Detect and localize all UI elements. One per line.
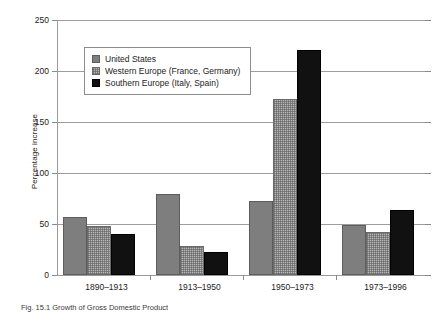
y-axis-label-50: 50	[40, 219, 49, 229]
legend-item-southern-europe[interactable]: Southern Europe (Italy, Spain)	[92, 77, 240, 89]
y-axis-label-250: 250	[35, 15, 49, 25]
bar-we-1973-1996[interactable]	[366, 232, 390, 275]
bar-se-1913-1950[interactable]	[204, 252, 228, 275]
legend-item-united-states[interactable]: United States	[92, 53, 240, 65]
y-axis-label-0: 0	[44, 270, 49, 280]
legend-label-united-states: United States	[105, 54, 156, 64]
bar-chart: Percentage increase 250 200 150 100 50 0	[0, 0, 438, 312]
y-tick-50	[52, 224, 57, 225]
y-axis-title: Percentage increase	[30, 72, 39, 232]
x-axis-label-1913-1950: 1913–1950	[156, 282, 243, 292]
chart-legend: United States Western Europe (France, Ge…	[84, 47, 251, 95]
x-axis-label-1890-1913: 1890–1913	[63, 282, 150, 292]
bar-we-1890-1913[interactable]	[87, 226, 111, 275]
bar-se-1950-1973[interactable]	[297, 50, 321, 275]
bar-us-1973-1996[interactable]	[342, 225, 366, 275]
y-tick-100	[52, 173, 57, 174]
y-tick-right-0	[425, 275, 431, 276]
bar-us-1913-1950[interactable]	[156, 194, 180, 275]
bar-se-1973-1996[interactable]	[390, 210, 414, 275]
x-axis-separator-3	[336, 275, 337, 280]
y-tick-0	[52, 275, 57, 276]
bar-se-1890-1913[interactable]	[111, 234, 135, 275]
x-axis-separator-1	[150, 275, 151, 280]
bar-we-1950-1973[interactable]	[273, 99, 297, 275]
x-axis-label-1950-1973: 1950–1973	[249, 282, 336, 292]
legend-swatch-icon-southern-europe	[92, 79, 100, 87]
legend-swatch-icon-western-europe	[92, 67, 100, 75]
y-axis-label-150: 150	[35, 117, 49, 127]
y-axis-label-200: 200	[35, 66, 49, 76]
legend-item-western-europe[interactable]: Western Europe (France, Germany)	[92, 65, 240, 77]
x-axis-label-1973-1996: 1973–1996	[342, 282, 429, 292]
legend-label-southern-europe: Southern Europe (Italy, Spain)	[105, 78, 219, 88]
legend-label-western-europe: Western Europe (France, Germany)	[105, 66, 240, 76]
y-tick-250	[52, 20, 57, 21]
y-axis-label-100: 100	[35, 168, 49, 178]
y-axis-line	[57, 20, 58, 275]
bar-us-1890-1913[interactable]	[63, 217, 87, 275]
figure-caption: Fig. 15.1 Growth of Gross Domestic Produ…	[21, 303, 168, 312]
bar-group-1973-1996	[342, 20, 429, 275]
x-axis-separator-2	[243, 275, 244, 280]
y-tick-200	[52, 71, 57, 72]
bar-group-1950-1973	[249, 20, 336, 275]
y-tick-150	[52, 122, 57, 123]
legend-swatch-icon-united-states	[92, 55, 100, 63]
bar-we-1913-1950[interactable]	[180, 246, 204, 275]
bar-us-1950-1973[interactable]	[249, 201, 273, 275]
